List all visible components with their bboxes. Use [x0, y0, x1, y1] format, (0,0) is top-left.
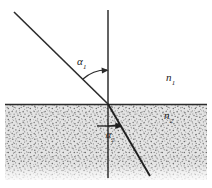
upper-index-label: n1 — [166, 72, 175, 86]
refraction-diagram: α1 α2 n1 n2 — [0, 0, 212, 188]
upper-index-symbol: n — [166, 71, 172, 83]
incident-ray — [14, 12, 108, 104]
refraction-angle-subscript: 2 — [111, 136, 114, 143]
incidence-angle-subscript: 1 — [83, 63, 86, 70]
lower-medium-region — [5, 105, 207, 180]
refraction-angle-label: α2 — [106, 130, 114, 142]
diagram-canvas — [0, 0, 212, 188]
lower-index-label: n2 — [164, 110, 173, 124]
upper-index-subscript: 1 — [172, 79, 175, 86]
lower-index-subscript: 2 — [170, 117, 173, 124]
incidence-angle-label: α1 — [77, 56, 86, 70]
incidence-angle-symbol: α — [77, 55, 83, 67]
lower-index-symbol: n — [164, 109, 170, 121]
incidence-angle-arc — [83, 68, 109, 79]
